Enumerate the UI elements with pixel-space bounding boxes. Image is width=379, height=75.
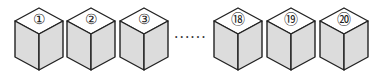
cube-row-diagram: ① ② ③ ······ ⑱ ⑲ [0, 0, 379, 75]
cube-number-label: ⑲ [279, 11, 303, 27]
cube-20: ⑳ [319, 0, 369, 75]
cube-1: ① [14, 0, 64, 75]
cube-19: ⑲ [266, 0, 316, 75]
ellipsis: ······ [174, 30, 207, 44]
cube-3: ③ [119, 0, 169, 75]
cube-number-label: ⑳ [332, 11, 356, 27]
cube-number-label: ③ [132, 11, 156, 27]
cube-2: ② [66, 0, 116, 75]
cube-number-label: ⑱ [226, 11, 250, 27]
cube-number-label: ② [79, 11, 103, 27]
cube-number-label: ① [27, 11, 51, 27]
cube-18: ⑱ [213, 0, 263, 75]
